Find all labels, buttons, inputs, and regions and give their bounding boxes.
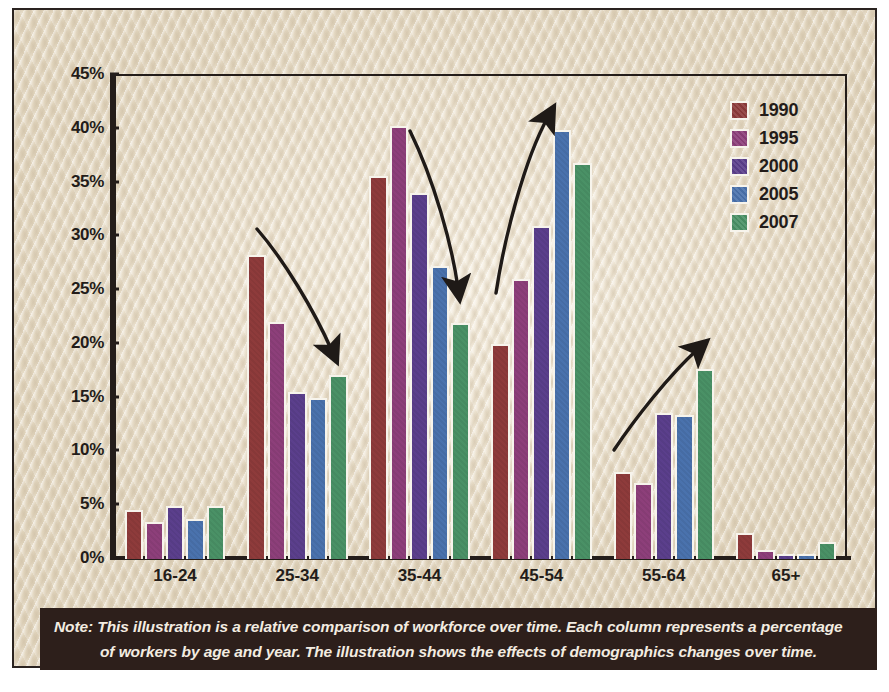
x-tick-label-45-54: 45-54 [520,566,563,586]
legend-swatch-icon [730,129,749,148]
bar-35-44-2007 [451,323,470,559]
bar-65+-1990 [736,533,755,559]
bar-16-24-1995 [145,522,164,559]
bar-25-34-2007 [329,375,348,559]
legend-label: 2005 [759,184,798,205]
y-tick-label: 10% [71,440,104,460]
y-tick-label: 15% [71,387,104,407]
legend-swatch-icon [730,101,749,120]
legend-label: 1990 [759,100,798,121]
chart-legend: 19901995200020052007 [730,96,840,236]
x-tick-label-55-64: 55-64 [642,566,685,586]
y-tick-label: 30% [71,225,104,245]
bar-25-34-1990 [247,255,266,559]
bar-65+-1995 [756,550,775,559]
bar-16-24-1990 [125,510,144,559]
legend-label: 2007 [759,212,798,233]
note-line-2: of workers by age and year. The illustra… [54,639,863,664]
x-tick-label-35-44: 35-44 [398,566,441,586]
bar-16-24-2005 [186,519,205,559]
x-tick-label-65+: 65+ [771,566,800,586]
bar-16-24-2007 [207,506,226,559]
legend-swatch-icon [730,213,749,232]
bar-35-44-1995 [390,126,409,559]
chart-panel: 0%5%10%15%20%25%30%35%40%45% 16-2425-343… [12,8,877,668]
legend-swatch-icon [730,157,749,176]
chart-screenshot: 0%5%10%15%20%25%30%35%40%45% 16-2425-343… [0,0,889,692]
y-tick-label: 40% [71,118,104,138]
bar-45-54-2000 [532,226,551,559]
y-tick-label: 25% [71,279,104,299]
bar-25-34-2000 [288,392,307,559]
bar-16-24-2000 [166,506,185,559]
legend-item-2007: 2007 [730,208,840,236]
bar-35-44-2005 [431,266,450,559]
note-box: Note: This illustration is a relative co… [40,608,877,670]
y-tick-label: 5% [80,494,104,514]
legend-swatch-icon [730,185,749,204]
note-line-1: Note: This illustration is a relative co… [54,614,863,639]
legend-item-2000: 2000 [730,152,840,180]
bar-55-64-1990 [614,472,633,559]
legend-item-1990: 1990 [730,96,840,124]
legend-label: 2000 [759,156,798,177]
legend-item-2005: 2005 [730,180,840,208]
y-tick-label: 20% [71,333,104,353]
bar-45-54-2005 [553,130,572,559]
y-tick-label: 0% [80,548,104,568]
x-tick-label-16-24: 16-24 [153,566,196,586]
bar-25-34-2005 [309,398,328,559]
bar-45-54-2007 [573,163,592,559]
x-tick-label-25-34: 25-34 [276,566,319,586]
legend-item-1995: 1995 [730,124,840,152]
bar-65+-2005 [797,554,816,559]
bar-55-64-2007 [696,369,715,559]
bar-55-64-2005 [675,415,694,559]
bar-65+-2000 [777,554,796,559]
legend-label: 1995 [759,128,798,149]
bar-35-44-2000 [410,193,429,559]
bar-55-64-2000 [655,413,674,559]
bar-25-34-1995 [268,322,287,559]
y-tick-label: 35% [71,172,104,192]
y-tick-label: 45% [71,64,104,84]
bar-55-64-1995 [634,483,653,559]
bar-35-44-1990 [369,176,388,559]
bar-45-54-1990 [491,344,510,559]
bar-45-54-1995 [512,279,531,559]
bar-65+-2007 [818,542,837,559]
